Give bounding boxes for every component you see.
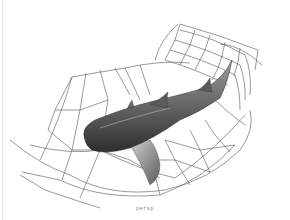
shark-model xyxy=(84,60,232,185)
figure-canvas xyxy=(0,0,290,220)
figure-caption: persp xyxy=(0,206,290,212)
shark-body xyxy=(84,60,232,152)
